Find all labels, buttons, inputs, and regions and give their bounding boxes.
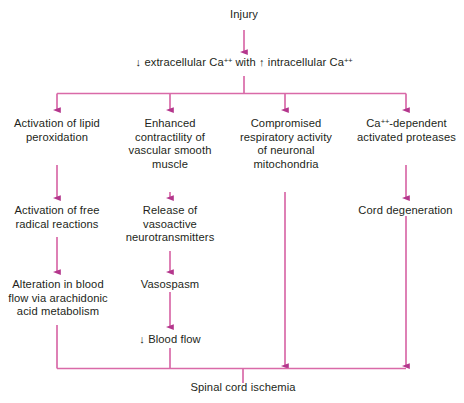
node-calcium-shift-sup-2: ++	[344, 56, 352, 65]
node-calcium-shift: ↓ extracellular Ca++ with ↑ intracellula…	[94, 56, 394, 70]
node-alteration-blood-flow-arachidonic: Alteration in blood flow via arachidonic…	[0, 278, 116, 319]
node-decreased-blood-flow: ↓ Blood flow	[120, 333, 220, 347]
node-activation-free-radical-reactions: Activation of free radical reactions	[2, 204, 112, 231]
node-activation-lipid-peroxidation: Activation of lipid peroxidation	[2, 117, 112, 144]
node-calcium-shift-sup-1: ++	[224, 56, 232, 65]
node-spinal-cord-ischemia: Spinal cord ischemia	[163, 381, 323, 395]
flowchart-canvas: Injury ↓ extracellular Ca++ with ↑ intra…	[0, 0, 464, 403]
node-calcium-shift-text: ↓ extracellular Ca	[135, 56, 223, 68]
node-compromised-respiratory-activity-neuronal-mitochondria: Compromised respiratory activity of neur…	[226, 117, 346, 171]
node-ca-dependent-sup: ++	[381, 117, 389, 126]
node-enhanced-contractility-vascular-smooth-muscle: Enhanced contractility of vascular smoot…	[119, 117, 221, 171]
node-ca-dependent-pre: Ca	[366, 117, 381, 129]
node-release-vasoactive-neurotransmitters: Release of vasoactive neurotransmitters	[113, 204, 227, 245]
node-vasospasm: Vasospasm	[120, 278, 220, 292]
node-calcium-dependent-activated-proteases: Ca++-dependent activated proteases	[349, 117, 464, 144]
node-injury: Injury	[204, 8, 284, 22]
node-calcium-shift-text-2: with ↑ intracellular Ca	[232, 56, 344, 68]
node-cord-degeneration: Cord degeneration	[347, 204, 464, 218]
